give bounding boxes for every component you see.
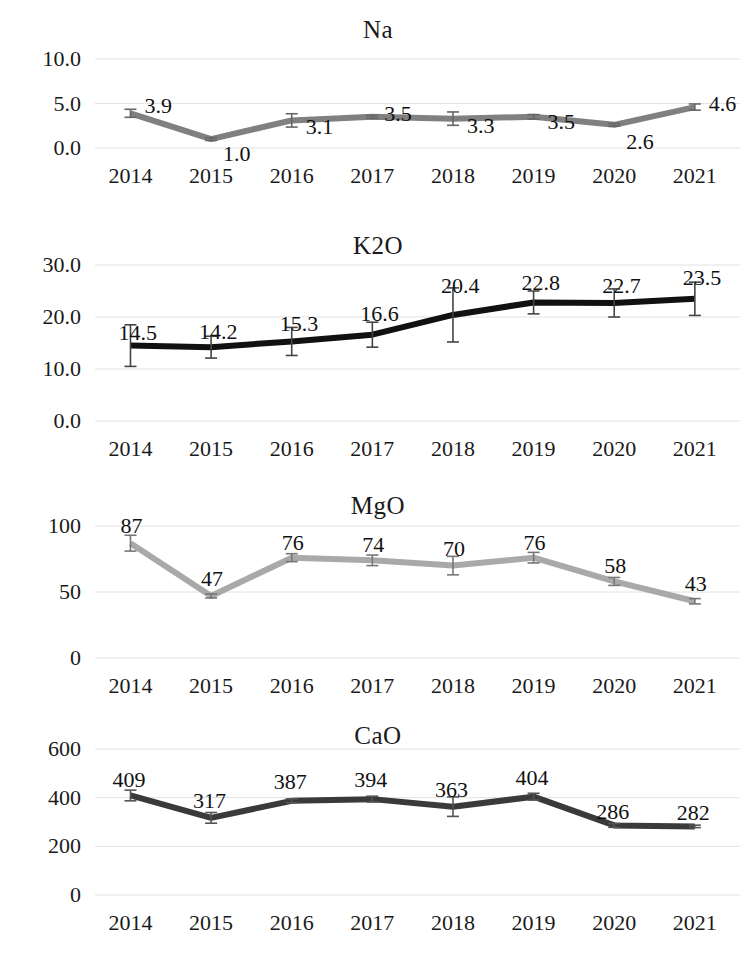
x-tick-label-k2o-4: 2018 xyxy=(431,436,475,462)
error-bar-na-4 xyxy=(447,112,459,125)
x-tick-label-na-7: 2021 xyxy=(673,163,717,189)
y-tick-label-cao-0: 0 xyxy=(0,882,81,908)
x-tick-label-na-3: 2017 xyxy=(350,163,394,189)
error-bar-cao-4 xyxy=(447,797,459,816)
data-label-mgo-1: 47 xyxy=(201,566,223,592)
data-label-na-5: 3.5 xyxy=(548,109,576,135)
x-tick-label-mgo-7: 2021 xyxy=(673,673,717,699)
data-label-k2o-1: 14.2 xyxy=(199,319,238,345)
x-tick-label-mgo-0: 2014 xyxy=(108,673,152,699)
data-label-cao-7: 282 xyxy=(677,800,710,826)
data-label-mgo-3: 74 xyxy=(362,532,384,558)
data-label-k2o-5: 22.8 xyxy=(522,270,561,296)
error-bar-k2o-7 xyxy=(689,282,701,315)
y-tick-label-na-1: 5.0 xyxy=(0,91,81,117)
y-tick-label-k2o-3: 30.0 xyxy=(0,252,81,278)
data-label-cao-4: 363 xyxy=(435,777,468,803)
x-tick-label-mgo-5: 2019 xyxy=(512,673,556,699)
x-tick-label-mgo-4: 2018 xyxy=(431,673,475,699)
error-bar-mgo-6 xyxy=(608,577,620,585)
error-bar-k2o-2 xyxy=(286,327,298,355)
data-label-cao-1: 317 xyxy=(193,788,226,814)
data-label-k2o-2: 15.3 xyxy=(280,311,319,337)
plot-area-k2o xyxy=(0,0,756,967)
data-label-cao-3: 394 xyxy=(354,767,387,793)
series-line-k2o xyxy=(130,299,694,347)
data-label-na-3: 3.5 xyxy=(384,101,412,127)
x-tick-label-k2o-7: 2021 xyxy=(673,436,717,462)
data-label-na-2: 3.1 xyxy=(306,114,334,140)
x-tick-label-mgo-6: 2020 xyxy=(592,673,636,699)
x-tick-label-cao-2: 2016 xyxy=(270,910,314,936)
data-label-na-6: 2.6 xyxy=(626,129,654,155)
data-label-cao-5: 404 xyxy=(516,765,549,791)
error-bar-na-3 xyxy=(366,116,378,119)
error-bar-mgo-5 xyxy=(528,552,540,563)
error-bar-cao-2 xyxy=(286,799,298,803)
data-label-k2o-6: 22.7 xyxy=(602,273,641,299)
x-tick-label-cao-3: 2017 xyxy=(350,910,394,936)
plot-area-mgo xyxy=(0,0,756,967)
error-bar-cao-1 xyxy=(205,813,217,824)
error-bar-k2o-1 xyxy=(205,336,217,358)
error-bar-k2o-5 xyxy=(528,291,540,314)
error-bar-na-0 xyxy=(124,109,136,117)
error-bar-cao-7 xyxy=(689,825,701,827)
chart-page: Na0.05.010.02014201520162017201820192020… xyxy=(0,0,756,967)
x-tick-label-cao-5: 2019 xyxy=(512,910,556,936)
error-bar-cao-3 xyxy=(366,796,378,802)
x-tick-label-na-0: 2014 xyxy=(108,163,152,189)
data-label-mgo-7: 43 xyxy=(685,571,707,597)
y-tick-label-cao-2: 400 xyxy=(0,785,81,811)
y-tick-label-k2o-2: 20.0 xyxy=(0,304,81,330)
error-bar-k2o-4 xyxy=(447,288,459,342)
x-tick-label-k2o-1: 2015 xyxy=(189,436,233,462)
chart-title-cao: CaO xyxy=(0,722,756,750)
error-bar-na-2 xyxy=(286,114,298,127)
error-bar-mgo-2 xyxy=(286,554,298,562)
x-tick-label-k2o-3: 2017 xyxy=(350,436,394,462)
error-bar-mgo-0 xyxy=(124,535,136,551)
x-tick-label-k2o-0: 2014 xyxy=(108,436,152,462)
data-label-mgo-2: 76 xyxy=(282,530,304,556)
x-tick-label-mgo-1: 2015 xyxy=(189,673,233,699)
x-tick-label-cao-7: 2021 xyxy=(673,910,717,936)
error-bar-na-5 xyxy=(528,115,540,119)
data-label-mgo-4: 70 xyxy=(443,536,465,562)
y-tick-label-mgo-0: 0 xyxy=(0,645,81,671)
chart-panel-mgo: MgO0501002014201520162017201820192020202… xyxy=(0,0,756,967)
data-label-na-4: 3.3 xyxy=(467,113,495,139)
x-tick-label-na-6: 2020 xyxy=(592,163,636,189)
series-line-cao xyxy=(130,795,694,826)
data-label-cao-0: 409 xyxy=(112,767,145,793)
plot-area-na xyxy=(0,0,756,967)
error-bar-mgo-1 xyxy=(205,594,217,598)
chart-panel-k2o: K2O0.010.020.030.02014201520162017201820… xyxy=(0,0,756,967)
y-tick-label-k2o-0: 0.0 xyxy=(0,408,81,434)
chart-panel-cao: CaO0200400600201420152016201720182019202… xyxy=(0,0,756,967)
data-label-k2o-4: 20.4 xyxy=(441,273,480,299)
y-tick-label-mgo-1: 50 xyxy=(0,579,81,605)
x-tick-label-na-1: 2015 xyxy=(189,163,233,189)
y-tick-label-na-2: 10.0 xyxy=(0,46,81,72)
data-label-cao-6: 286 xyxy=(596,799,629,825)
data-label-mgo-6: 58 xyxy=(604,553,626,579)
error-bar-k2o-0 xyxy=(124,325,136,367)
error-bar-na-1 xyxy=(205,138,217,141)
data-label-na-0: 3.9 xyxy=(144,93,172,119)
series-line-na xyxy=(130,107,694,139)
error-bar-mgo-4 xyxy=(447,556,459,574)
plot-area-cao xyxy=(0,0,756,967)
series-line-mgo xyxy=(130,543,694,601)
data-label-na-7: 4.6 xyxy=(709,91,737,117)
x-tick-label-na-2: 2016 xyxy=(270,163,314,189)
error-bar-cao-6 xyxy=(608,823,620,827)
x-tick-label-na-4: 2018 xyxy=(431,163,475,189)
x-tick-label-mgo-2: 2016 xyxy=(270,673,314,699)
chart-panel-na: Na0.05.010.02014201520162017201820192020… xyxy=(0,0,756,967)
x-tick-label-na-5: 2019 xyxy=(512,163,556,189)
data-label-cao-2: 387 xyxy=(274,769,307,795)
y-tick-label-mgo-2: 100 xyxy=(0,513,81,539)
data-label-k2o-3: 16.6 xyxy=(360,301,399,327)
error-bar-cao-0 xyxy=(124,790,136,801)
